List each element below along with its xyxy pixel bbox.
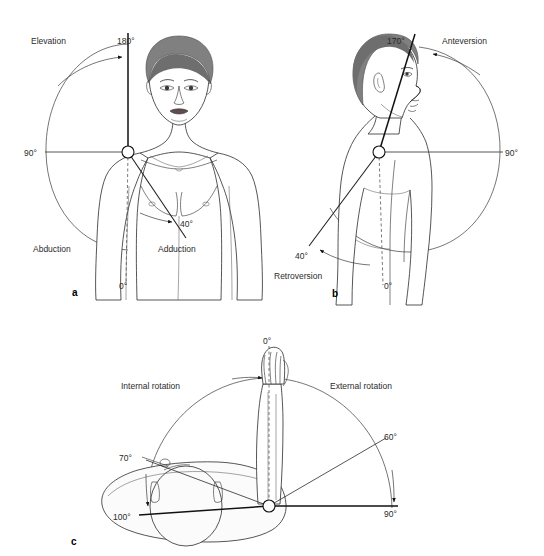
panel-a-shoulder-joint: [122, 146, 134, 158]
panel-b-label-170: 170°: [387, 36, 405, 46]
panel-c-label-0: 0°: [263, 336, 271, 346]
panel-c-label-70: 70°: [119, 453, 132, 463]
panel-a-label-40: 40°: [180, 219, 193, 229]
panel-b-label-anteversion: Anteversion: [442, 36, 487, 46]
panel-c-label-internal-rotation: Internal rotation: [121, 381, 180, 391]
panel-a-label-90: 90°: [24, 148, 37, 158]
panel-c-label-90: 90°: [384, 509, 397, 519]
panel-c-shoulder-joint: [263, 500, 275, 512]
panel-a-label-elevation: Elevation: [31, 36, 66, 46]
panel-b-label-0: 0°: [384, 281, 392, 291]
panel-b-label-90: 90°: [505, 148, 518, 158]
panel-a-id: a: [72, 287, 78, 298]
panel-b-shoulder-joint: [373, 146, 385, 158]
panel-c-label-100: 100°: [113, 512, 131, 522]
panel-c-label-external-rotation: External rotation: [330, 381, 392, 391]
panel-b-label-retroversion: Retroversion: [274, 271, 322, 281]
panel-b-id: b: [332, 288, 338, 299]
panel-b-label-40: 40°: [295, 251, 308, 261]
panel-c-label-60: 60°: [384, 432, 397, 442]
panel-a-label-adduction: Adduction: [158, 244, 196, 254]
panel-a-label-0: 0°: [119, 281, 127, 291]
shoulder-rom-figure: Elevation 180° 90° Abduction Adduction 4…: [0, 0, 544, 556]
panel-a-label-180: 180°: [117, 36, 135, 46]
panel-a-label-abduction: Abduction: [33, 244, 71, 254]
panel-c-id: c: [71, 536, 77, 547]
